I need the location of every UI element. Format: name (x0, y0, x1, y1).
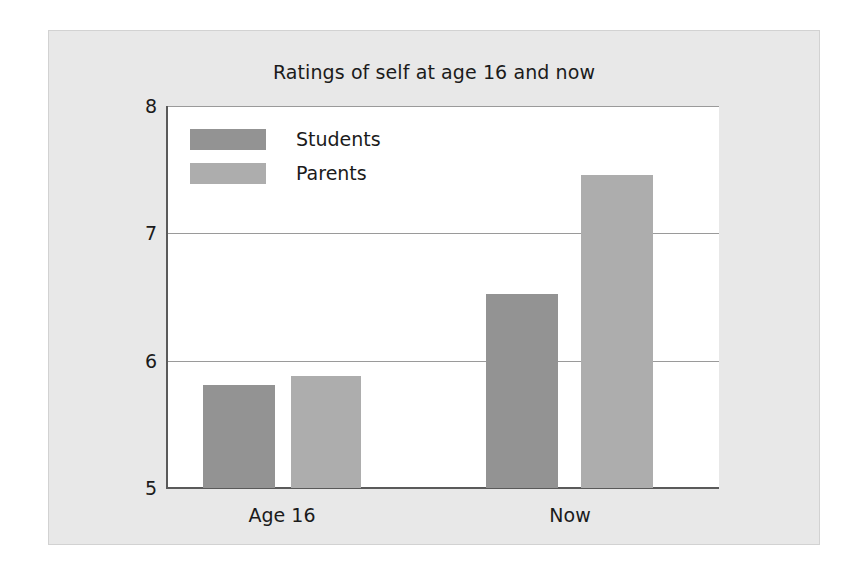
x-axis-label-age16: Age 16 (249, 504, 316, 526)
y-axis-tick-8: 8 (145, 95, 157, 117)
bar-parents-now (581, 175, 653, 488)
chart-panel: Ratings of self at age 16 and now 8 7 6 … (48, 30, 820, 545)
legend-label-parents: Parents (296, 162, 367, 184)
x-axis-label-now: Now (549, 504, 590, 526)
bar-students-now (486, 294, 558, 488)
legend-item-parents: Parents (190, 156, 381, 190)
chart-legend: Students Parents (190, 122, 381, 190)
bar-parents-age16 (291, 376, 361, 488)
legend-item-students: Students (190, 122, 381, 156)
chart-title: Ratings of self at age 16 and now (49, 61, 819, 83)
legend-swatch-students-icon (190, 129, 266, 150)
y-axis-tick-5: 5 (145, 477, 157, 499)
gridline-8 (168, 106, 719, 107)
legend-swatch-parents-icon (190, 163, 266, 184)
plot-area: 8 7 6 5 Age 16 Now Students Parents (166, 106, 719, 488)
y-axis-tick-7: 7 (145, 222, 157, 244)
bar-students-age16 (203, 385, 275, 488)
y-axis-tick-6: 6 (145, 350, 157, 372)
legend-label-students: Students (296, 128, 381, 150)
